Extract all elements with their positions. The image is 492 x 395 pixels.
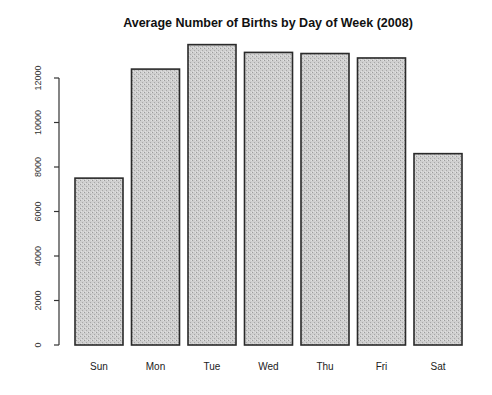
y-tick-label: 10000: [33, 110, 43, 135]
bar-mon: [132, 69, 180, 345]
y-tick-label: 2000: [33, 290, 43, 310]
x-tick-label: Tue: [204, 361, 221, 372]
y-tick-label: 4000: [33, 246, 43, 266]
bar-sun: [75, 178, 123, 345]
x-tick-label: Wed: [258, 361, 278, 372]
chart-title: Average Number of Births by Day of Week …: [123, 16, 413, 30]
x-tick-label: Fri: [376, 361, 388, 372]
bar-chart: Average Number of Births by Day of Week …: [0, 0, 492, 395]
x-tick-label: Thu: [316, 361, 333, 372]
x-tick-label: Sun: [90, 361, 108, 372]
x-tick-label: Mon: [146, 361, 165, 372]
bars: [75, 45, 462, 345]
bar-wed: [245, 52, 293, 345]
y-tick-label: 0: [33, 342, 43, 347]
bar-fri: [358, 58, 406, 345]
x-axis-labels: SunMonTueWedThuFriSat: [90, 361, 446, 372]
y-axis: 020004000600080001000012000: [33, 65, 59, 347]
y-tick-label: 12000: [33, 65, 43, 90]
bar-thu: [301, 54, 349, 345]
bar-tue: [188, 45, 236, 345]
x-tick-label: Sat: [430, 361, 445, 372]
y-tick-label: 8000: [33, 157, 43, 177]
bar-sat: [414, 154, 462, 345]
y-tick-label: 6000: [33, 201, 43, 221]
